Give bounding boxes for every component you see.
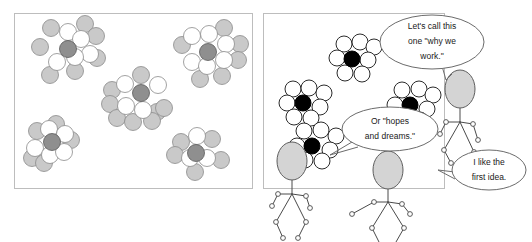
cluster-cell [218, 36, 235, 53]
cluster-cell [214, 68, 231, 85]
cluster-cell [189, 128, 206, 145]
cluster-center-cell [188, 145, 205, 162]
bubble-line: Or "hopes [371, 116, 409, 126]
cluster-cell [216, 52, 233, 69]
cluster-cell [150, 77, 167, 94]
cluster-cell [118, 98, 135, 115]
cluster-cell [117, 76, 134, 93]
bubble-shape [342, 107, 438, 151]
bubble-first-idea: I like the first idea. [438, 150, 526, 190]
left-panel [15, 14, 253, 189]
figure-joint [400, 202, 405, 207]
cluster-cell [337, 65, 353, 81]
bubble-line: I like the [473, 157, 505, 167]
figure-joint [476, 138, 481, 143]
figure-joint [304, 194, 309, 199]
cluster-cell [156, 100, 173, 117]
cluster-cell [313, 122, 329, 138]
figure-joint [444, 120, 449, 125]
cluster-cell [184, 54, 201, 71]
cluster-cell [336, 36, 352, 52]
cluster-center-cell [295, 95, 311, 111]
figure-joint [471, 122, 476, 127]
cartoon-figure: Let's call this one "why we work." Or "h… [0, 0, 532, 242]
cluster-cell [279, 95, 295, 111]
cluster-cell [43, 20, 60, 37]
cluster-cell [329, 50, 345, 66]
cluster-cell [314, 153, 330, 169]
figure-joint [281, 236, 286, 241]
cluster-cell [201, 26, 218, 43]
figure-joint [438, 132, 443, 137]
figure-joint [402, 226, 407, 231]
bubble-line: and dreams." [365, 131, 415, 141]
figure-joint [350, 212, 355, 217]
cluster-cell [216, 20, 233, 37]
cluster-center-cell [304, 138, 320, 154]
cluster-cell [27, 140, 44, 157]
figure-body-lines [352, 189, 410, 242]
bubble-shape [452, 150, 526, 190]
cluster-cell [296, 123, 312, 139]
bubble-line: Let's call this [408, 21, 456, 31]
cluster-cell [32, 39, 49, 56]
figure-joint [304, 220, 309, 225]
figure-joint [296, 236, 301, 241]
figure-joint [372, 200, 377, 205]
bubble-line: one "why we [408, 36, 456, 46]
cluster-cell [135, 102, 152, 119]
cluster-center-cell [60, 41, 77, 58]
cluster-cell [354, 66, 370, 82]
figure-joint [276, 192, 281, 197]
cluster-cell [82, 46, 99, 63]
cluster-center-cell [44, 134, 61, 151]
cluster-cell [286, 109, 302, 125]
figure-head [445, 70, 475, 108]
figure-joint [270, 204, 275, 209]
cluster-cell [133, 67, 150, 84]
cluster-cell [184, 28, 201, 45]
bubble-line: first idea. [472, 172, 507, 182]
cluster-cell [88, 28, 105, 45]
cluster-center-cell [133, 85, 150, 102]
cluster-center-cell [200, 44, 217, 61]
figure-joint [370, 226, 375, 231]
cluster-center-cell [344, 51, 360, 67]
figure-joint [308, 206, 313, 211]
cluster-cell [316, 85, 332, 101]
figure-head [277, 142, 307, 180]
figure-head [373, 151, 403, 189]
figure-joint [408, 212, 413, 217]
cluster-cell [394, 82, 410, 98]
cluster-cell [204, 131, 221, 148]
cluster-cell [167, 147, 184, 164]
figure-joint [274, 220, 279, 225]
bubble-line: work." [419, 51, 443, 61]
cluster-cell [301, 80, 317, 96]
cartoon-canvas: Let's call this one "why we work." Or "h… [0, 0, 532, 242]
figure-joint [442, 148, 447, 153]
